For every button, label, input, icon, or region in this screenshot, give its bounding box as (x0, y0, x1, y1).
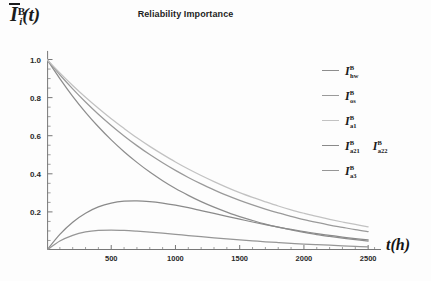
legend-symbol-superscript: B (377, 139, 381, 146)
legend-symbol-superscript: B (350, 64, 354, 71)
y-tick-label: 1.0 (11, 55, 41, 64)
legend-symbol-subscript: a1 (350, 122, 357, 129)
legend-symbol-a21: IBa21 (345, 140, 364, 152)
legend-item-I_a21_a22[interactable]: IBa21IBa22 (322, 133, 430, 158)
legend-symbol-base: I (345, 139, 350, 153)
chart-canvas: IBi(t) Reliability Importance 5001000150… (0, 0, 431, 281)
legend-symbol-group: IBa3 (345, 165, 361, 177)
legend-symbol-a1: IBa1 (345, 115, 361, 127)
x-tick-label: 2000 (296, 254, 313, 263)
series-line-I_os (47, 60, 368, 232)
legend-swatch-I_a21_a22 (322, 145, 339, 146)
y-tick-label: 0.4 (11, 169, 41, 178)
x-tick-label: 1000 (167, 254, 184, 263)
legend-symbol-subscript: a21 (350, 147, 360, 154)
legend-item-I_a3[interactable]: IBa3 (322, 158, 430, 183)
chart-legend: IBhwIBosIBa1IBa21IBa22IBa3 (322, 58, 430, 183)
legend-symbol-superscript: B (350, 89, 354, 96)
x-tick-label: 500 (105, 254, 118, 263)
legend-symbol-group: IBos (345, 90, 360, 102)
legend-symbol-group: IBhw (345, 65, 362, 77)
legend-symbol-group: IBa21IBa22 (345, 140, 392, 152)
y-tick-label: 0.2 (11, 207, 41, 216)
x-axis-label: t(h) (386, 236, 410, 254)
legend-symbol-group: IBa1 (345, 115, 361, 127)
legend-symbol-os: IBos (345, 90, 360, 102)
legend-symbol-hw: IBhw (345, 65, 362, 77)
legend-symbol-superscript: B (350, 114, 354, 121)
legend-symbol-superscript: B (350, 139, 354, 146)
legend-symbol-a22: IBa22 (373, 140, 392, 152)
x-tick-label: 1500 (231, 254, 248, 263)
y-tick-label: 0.6 (11, 131, 41, 140)
legend-symbol-a3: IBa3 (345, 165, 361, 177)
overbar-decoration (9, 3, 20, 5)
legend-symbol-base: I (345, 89, 350, 103)
legend-symbol-base: I (345, 64, 350, 78)
series-line-I_hw (47, 60, 368, 242)
x-tick-label: 2500 (360, 254, 377, 263)
legend-swatch-I_hw (322, 70, 339, 71)
legend-symbol-subscript: a22 (378, 147, 388, 154)
legend-item-I_hw[interactable]: IBhw (322, 58, 430, 83)
legend-symbol-subscript: os (350, 97, 356, 104)
legend-symbol-base: I (345, 114, 350, 128)
legend-swatch-I_os (322, 95, 339, 96)
legend-swatch-I_a3 (322, 170, 339, 171)
series-line-I_a1 (47, 60, 368, 227)
legend-item-I_os[interactable]: IBos (322, 83, 430, 108)
series-line-I_a21_a22 (47, 201, 368, 250)
legend-item-I_a1[interactable]: IBa1 (322, 108, 430, 133)
legend-symbol-subscript: hw (350, 72, 358, 79)
legend-symbol-base: I (345, 164, 350, 178)
legend-swatch-I_a1 (322, 120, 339, 121)
series-line-I_a3 (47, 230, 368, 250)
legend-symbol-superscript: B (350, 164, 354, 171)
legend-symbol-subscript: a3 (350, 172, 357, 179)
y-tick-label: 0.8 (11, 93, 41, 102)
chart-title: Reliability Importance (0, 9, 431, 19)
